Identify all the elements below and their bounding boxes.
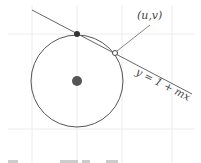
top-point — [74, 31, 80, 37]
circle-line-diagram: (u,v) y = 1 + mx — [0, 0, 201, 163]
center-point — [72, 76, 82, 86]
caption-fragment — [8, 160, 118, 163]
line-equation-label: y = 1 + mx — [133, 65, 192, 103]
point-label: (u,v) — [137, 9, 162, 22]
intersection-point — [113, 51, 118, 56]
